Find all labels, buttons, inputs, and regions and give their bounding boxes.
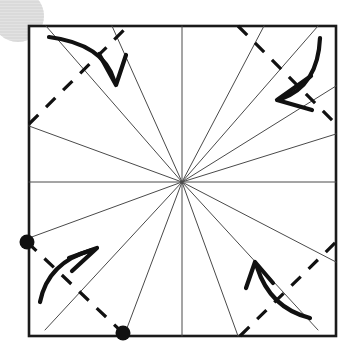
- origami-diagram-container: [0, 0, 350, 355]
- dot-bottom-edge: [116, 326, 131, 341]
- origami-diagram-svg: [0, 0, 350, 355]
- dot-left-edge: [20, 235, 35, 250]
